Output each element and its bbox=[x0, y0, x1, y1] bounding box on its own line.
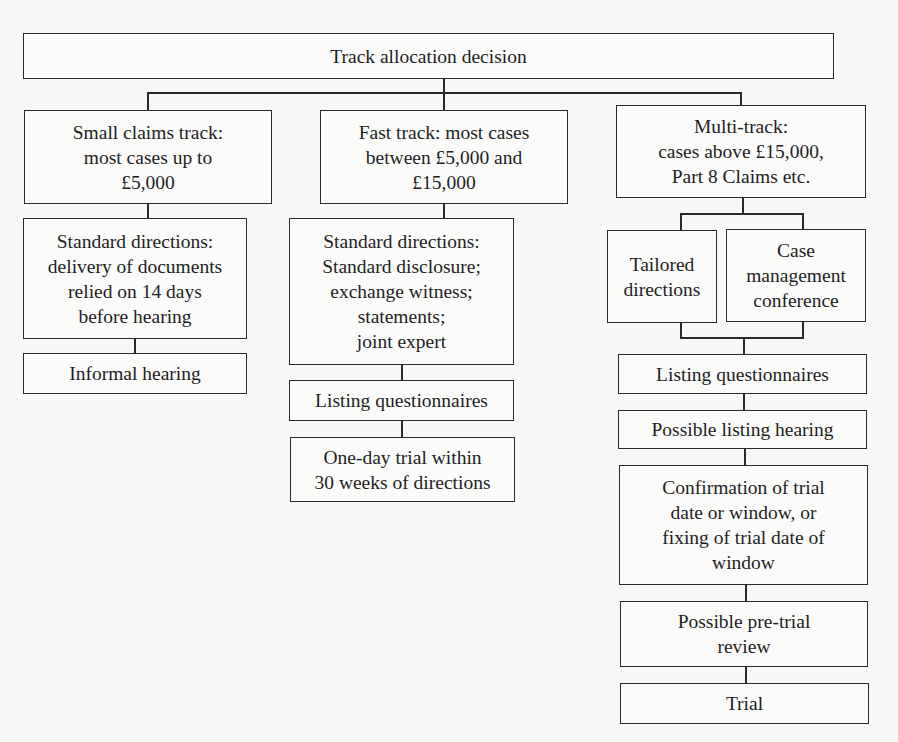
connector bbox=[740, 92, 742, 106]
fast-track-listing-questionnaires-node: Listing questionnaires bbox=[289, 380, 514, 421]
connector bbox=[134, 338, 136, 354]
tailored-directions-node: Tailored directions bbox=[607, 230, 717, 323]
one-day-trial-node: One-day trial within 30 weeks of directi… bbox=[290, 437, 515, 502]
node-label: Listing questionnaires bbox=[656, 362, 829, 387]
connector bbox=[802, 213, 804, 230]
node-label: Confirmation of trial date or window, or… bbox=[662, 475, 824, 575]
node-label: Fast track: most cases between £5,000 an… bbox=[359, 120, 530, 195]
informal-hearing-node: Informal hearing bbox=[23, 353, 247, 394]
node-label: Standard directions: Standard disclosure… bbox=[322, 229, 481, 354]
node-label: Tailored directions bbox=[624, 252, 701, 302]
fast-track-node: Fast track: most cases between £5,000 an… bbox=[320, 110, 568, 204]
node-label: Track allocation decision bbox=[330, 44, 526, 69]
fast-track-standard-directions-node: Standard directions: Standard disclosure… bbox=[289, 218, 514, 365]
trial-date-confirmation-node: Confirmation of trial date or window, or… bbox=[619, 465, 868, 585]
node-label: Listing questionnaires bbox=[315, 388, 488, 413]
connector bbox=[680, 213, 682, 231]
connector bbox=[744, 448, 746, 466]
node-label: Multi-track: cases above £15,000, Part 8… bbox=[658, 114, 824, 189]
possible-listing-hearing-node: Possible listing hearing bbox=[618, 410, 867, 449]
connector bbox=[401, 364, 403, 381]
connector bbox=[743, 393, 745, 411]
connector bbox=[745, 666, 747, 684]
connector bbox=[443, 203, 445, 219]
possible-pre-trial-review-node: Possible pre-trial review bbox=[620, 601, 868, 667]
multi-track-node: Multi-track: cases above £15,000, Part 8… bbox=[616, 105, 866, 198]
node-label: Trial bbox=[726, 691, 763, 716]
connector bbox=[147, 92, 149, 111]
node-label: Possible listing hearing bbox=[652, 417, 834, 442]
track-allocation-decision-node: Track allocation decision bbox=[23, 33, 834, 79]
connector bbox=[680, 213, 804, 215]
node-label: Small claims track: most cases up to £5,… bbox=[73, 120, 224, 195]
connector bbox=[443, 78, 445, 93]
node-label: Possible pre-trial review bbox=[678, 609, 811, 659]
connector bbox=[743, 337, 745, 355]
node-label: Standard directions: delivery of documen… bbox=[48, 229, 222, 329]
connector bbox=[443, 92, 445, 111]
case-management-conference-node: Case management conference bbox=[726, 229, 866, 322]
connector bbox=[745, 584, 747, 602]
connector bbox=[147, 203, 149, 219]
connector bbox=[680, 337, 804, 339]
node-label: One-day trial within 30 weeks of directi… bbox=[315, 445, 491, 495]
connector bbox=[401, 420, 403, 438]
node-label: Case management conference bbox=[746, 238, 846, 313]
small-claims-standard-directions-node: Standard directions: delivery of documen… bbox=[23, 218, 247, 339]
node-label: Informal hearing bbox=[69, 361, 201, 386]
connector bbox=[680, 322, 682, 338]
multi-track-listing-questionnaires-node: Listing questionnaires bbox=[618, 354, 867, 394]
trial-node: Trial bbox=[620, 683, 869, 724]
connector bbox=[742, 197, 744, 214]
connector bbox=[802, 321, 804, 338]
small-claims-track-node: Small claims track: most cases up to £5,… bbox=[24, 110, 272, 204]
